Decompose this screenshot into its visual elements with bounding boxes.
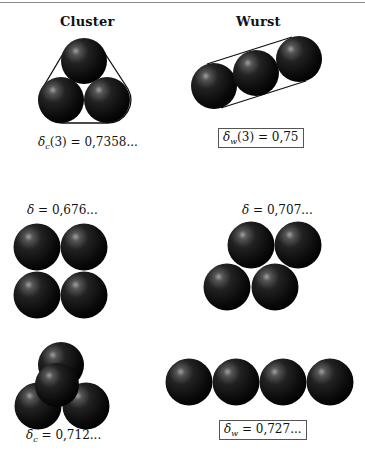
sphere bbox=[233, 50, 279, 96]
sphere-packing-figure bbox=[0, 0, 365, 457]
line4-diagram bbox=[166, 359, 354, 406]
label-wurst3: δw(3) = 0,75 bbox=[218, 128, 304, 148]
header-wurst: Wurst bbox=[236, 14, 281, 29]
cluster3-diagram bbox=[38, 38, 131, 123]
sphere bbox=[166, 359, 213, 406]
sphere bbox=[14, 272, 61, 319]
label-line4: δw = 0,727... bbox=[219, 420, 307, 440]
sphere bbox=[213, 359, 260, 406]
tetra4-diagram bbox=[15, 342, 110, 430]
sphere bbox=[307, 359, 354, 406]
sphere bbox=[61, 272, 108, 319]
sphere bbox=[204, 264, 251, 311]
label-square4: δ = 0,676... bbox=[27, 203, 98, 217]
sphere bbox=[252, 264, 299, 311]
sphere bbox=[61, 38, 107, 84]
sphere bbox=[35, 363, 79, 407]
sphere bbox=[260, 359, 307, 406]
label-tetra4: δc = 0,712... bbox=[26, 428, 101, 444]
label-rhombus4: δ = 0,707... bbox=[242, 203, 313, 217]
sphere bbox=[275, 222, 322, 269]
label-cluster3: δc(3) = 0,7358... bbox=[38, 135, 138, 151]
sphere bbox=[276, 36, 322, 82]
header-cluster: Cluster bbox=[60, 14, 115, 29]
sphere bbox=[61, 224, 108, 271]
square4-diagram bbox=[14, 224, 108, 319]
rhombus4-diagram bbox=[204, 222, 322, 311]
sphere bbox=[228, 222, 275, 269]
sphere bbox=[84, 77, 130, 123]
sphere bbox=[38, 77, 84, 123]
sphere bbox=[14, 224, 61, 271]
sphere bbox=[191, 63, 237, 109]
wurst3-diagram bbox=[191, 36, 322, 109]
